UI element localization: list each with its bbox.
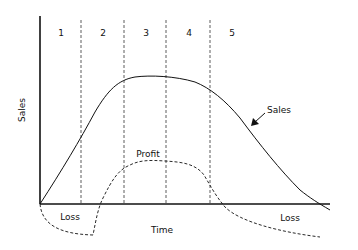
loss-label-right: Loss <box>280 213 300 223</box>
sales-curve <box>40 76 330 210</box>
profit-curve-label: Profit <box>136 149 160 159</box>
stage-label-5: 5 <box>229 28 235 38</box>
stage-label-4: 4 <box>186 28 192 38</box>
sales-arrow <box>255 113 265 122</box>
stage-label-2: 2 <box>100 28 106 38</box>
stage-label-1: 1 <box>58 28 64 38</box>
product-life-cycle-diagram: 1 2 3 4 5 Sales Profit Loss Loss Time Sa… <box>0 0 358 250</box>
loss-label-left: Loss <box>60 212 80 222</box>
stage-dividers <box>81 20 210 204</box>
y-axis-label: Sales <box>17 98 27 122</box>
profit-curve <box>40 160 320 237</box>
stage-label-3: 3 <box>143 28 149 38</box>
x-axis-label: Time <box>150 225 173 235</box>
sales-curve-label: Sales <box>267 105 291 115</box>
